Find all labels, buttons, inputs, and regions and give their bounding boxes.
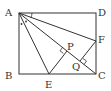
label-b: B	[5, 70, 12, 81]
angle-mark-bae	[21, 23, 23, 25]
label-p: P	[67, 41, 74, 52]
angle-arc-daf	[31, 13, 32, 18]
right-angle-mark-p	[60, 48, 63, 54]
angle-mark-eac	[25, 21, 27, 23]
geometry-diagram: A B C D E F P Q	[0, 0, 111, 91]
diagonal-ac	[19, 13, 96, 74]
label-f: F	[98, 34, 105, 45]
label-q: Q	[72, 61, 80, 72]
label-a: A	[4, 7, 13, 18]
label-d: D	[98, 7, 106, 18]
label-e: E	[45, 79, 52, 90]
segment-fq	[80, 41, 96, 61]
segment-ep	[49, 51, 67, 74]
label-c: C	[98, 70, 106, 81]
